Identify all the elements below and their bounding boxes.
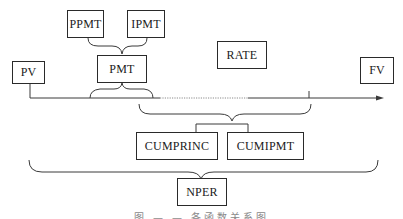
node-label: CUMPRINC [145, 139, 209, 154]
brace-ppmt-ipmt [88, 38, 147, 54]
cum-connector [196, 124, 248, 132]
brace-pmt [90, 83, 153, 98]
node-label: FV [369, 63, 385, 78]
node-label: PV [21, 65, 37, 80]
node-nper: NPER [177, 178, 227, 206]
node-label: NPER [186, 185, 217, 200]
node-cumipmt: CUMIPMT [227, 132, 304, 160]
node-pv: PV [12, 61, 45, 84]
node-ppmt: PPMT [67, 10, 104, 38]
node-cumprinc: CUMPRINC [136, 132, 218, 160]
node-label: IPMT [131, 17, 160, 32]
timeline-arrow-icon [376, 96, 384, 101]
figure-caption: 图 — — 各函数关系图 [0, 209, 403, 219]
node-label: CUMIPMT [237, 139, 294, 154]
node-rate: RATE [217, 41, 267, 69]
brace-nper [29, 160, 378, 179]
node-label: PPMT [69, 17, 101, 32]
brace-cumulative [139, 104, 311, 121]
node-ipmt: IPMT [127, 10, 165, 38]
node-label: RATE [227, 48, 258, 63]
node-pmt: PMT [97, 55, 147, 83]
node-label: PMT [109, 62, 134, 77]
node-fv: FV [360, 57, 394, 84]
